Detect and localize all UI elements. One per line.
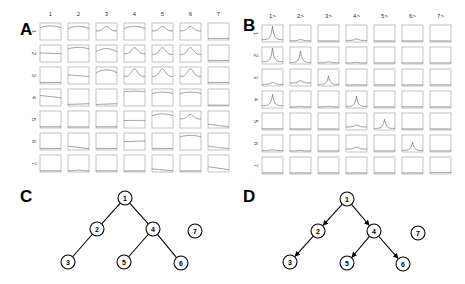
plot-cell-b-2-2 — [290, 47, 311, 64]
node-label: 3 — [288, 259, 292, 266]
row-label: 2 — [31, 52, 37, 56]
plot-cell-a-5-7 — [208, 111, 229, 128]
plot-cell-b-6-7 — [430, 135, 451, 152]
column-label: 7> — [437, 13, 444, 19]
plot-cell-a-7-3 — [96, 155, 117, 172]
node-label: 6 — [401, 261, 405, 268]
plot-cell-a-1-5 — [152, 23, 173, 40]
plot-cell-a-1-3 — [96, 23, 117, 40]
plot-cell-b-5-4 — [346, 113, 367, 130]
node-2: 2 — [311, 224, 325, 238]
column-label: 7 — [217, 11, 221, 17]
plot-cell-b-6-3 — [318, 135, 339, 152]
plot-cell-a-2-3 — [96, 45, 117, 62]
plot-cell-b-4-5 — [374, 91, 395, 108]
row-label: 4 — [31, 96, 37, 100]
plot-cell-a-6-5 — [152, 133, 173, 150]
plot-cell-b-7-4 — [346, 157, 367, 174]
node-label: 4 — [151, 226, 155, 233]
plot-cell-a-3-7 — [208, 67, 229, 84]
plot-cell-b-2-4 — [346, 47, 367, 64]
plot-cell-b-6-4 — [346, 135, 367, 152]
plot-cell-b-6-5 — [374, 135, 395, 152]
plot-cell-a-7-7 — [208, 155, 229, 172]
column-label: 6 — [189, 11, 193, 17]
node-1: 1 — [340, 192, 354, 206]
edge-1-2 — [102, 203, 121, 224]
node-1: 1 — [118, 191, 132, 205]
plot-cell-a-5-6 — [180, 111, 201, 128]
plot-cell-b-3-2 — [290, 69, 311, 86]
node-6: 6 — [396, 257, 410, 271]
plot-cell-a-4-1 — [40, 89, 61, 106]
plot-cell-b-1-6 — [402, 25, 423, 42]
edge-4-6 — [379, 236, 398, 258]
row-label: 3 — [31, 74, 37, 78]
plot-cell-a-3-4 — [124, 67, 145, 84]
plot-cell-b-1-5 — [374, 25, 395, 42]
column-label: 6> — [409, 13, 416, 19]
plot-cell-a-5-5 — [152, 111, 173, 128]
plot-cell-a-4-3 — [96, 89, 117, 106]
plot-cell-a-5-3 — [96, 111, 117, 128]
plot-cell-b-7-1 — [262, 157, 283, 174]
plot-cell-b-4-2 — [290, 91, 311, 108]
plot-cell-a-7-1 — [40, 155, 61, 172]
plot-cell-b-5-2 — [290, 113, 311, 130]
plot-cell-b-7-5 — [374, 157, 395, 174]
plot-cell-b-2-7 — [430, 47, 451, 64]
plot-cell-b-2-3 — [318, 47, 339, 64]
row-label: 1 — [253, 32, 259, 36]
figure-canvas: 12345671234567 1>2>3>4>5>6>7>1234567 124… — [0, 0, 465, 284]
plot-cell-a-5-2 — [68, 111, 89, 128]
row-label: 4 — [253, 98, 259, 102]
plot-cell-b-4-6 — [402, 91, 423, 108]
node-label: 5 — [122, 259, 126, 266]
edge-2-3 — [73, 234, 93, 256]
plot-cell-a-2-6 — [180, 45, 201, 62]
edge-1-2 — [323, 204, 342, 225]
plot-cell-a-4-4 — [124, 89, 145, 106]
edge-4-6 — [157, 234, 176, 257]
panel-c-graph: 1247356 — [61, 191, 202, 270]
edge-1-4 — [352, 204, 370, 225]
column-label: 4 — [133, 11, 137, 17]
plot-cell-b-4-1 — [262, 91, 283, 108]
plot-cell-a-1-6 — [180, 23, 201, 40]
edge-1-4 — [130, 203, 149, 224]
node-5: 5 — [340, 256, 354, 270]
plot-cell-a-2-5 — [152, 45, 173, 62]
node-label: 7 — [416, 230, 420, 237]
column-label: 1 — [49, 11, 53, 17]
node-label: 5 — [345, 260, 349, 267]
plot-cell-b-5-1 — [262, 113, 283, 130]
node-7: 7 — [411, 226, 425, 240]
node-label: 2 — [95, 226, 99, 233]
plot-cell-a-3-3 — [96, 67, 117, 84]
row-label: 7 — [253, 164, 259, 168]
column-label: 1> — [269, 13, 276, 19]
node-label: 6 — [179, 260, 183, 267]
node-2: 2 — [90, 222, 104, 236]
plot-cell-b-1-1 — [262, 25, 283, 42]
plot-cell-a-4-5 — [152, 89, 173, 106]
plot-cell-a-6-2 — [68, 133, 89, 150]
plot-cell-a-7-6 — [180, 155, 201, 172]
node-label: 4 — [372, 228, 376, 235]
edge-4-5 — [352, 236, 370, 257]
plot-cell-a-6-7 — [208, 133, 229, 150]
column-label: 2 — [77, 11, 81, 17]
plot-cell-a-2-2 — [68, 45, 89, 62]
column-label: 5 — [161, 11, 165, 17]
plot-cell-b-6-1 — [262, 135, 283, 152]
plot-cell-a-3-2 — [68, 67, 89, 84]
plot-cell-a-6-1 — [40, 133, 61, 150]
plot-cell-b-5-3 — [318, 113, 339, 130]
plot-cell-b-4-7 — [430, 91, 451, 108]
column-label: 4> — [353, 13, 360, 19]
plot-cell-b-6-6 — [402, 135, 423, 152]
column-label: 3> — [325, 13, 332, 19]
plot-cell-a-3-1 — [40, 67, 61, 84]
plot-cell-b-7-2 — [290, 157, 311, 174]
plot-cell-a-3-6 — [180, 67, 201, 84]
